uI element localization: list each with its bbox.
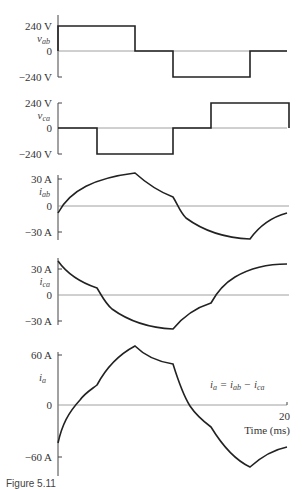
- ytick-240v: 240 V: [25, 97, 52, 109]
- ytick-240v: 240 V: [25, 20, 52, 32]
- panel-ica: 30 A ica 0 −30 A: [25, 258, 289, 329]
- ytick-0: 0: [47, 45, 53, 57]
- ytick-30a: 30 A: [31, 173, 52, 185]
- xtick-20: 20: [279, 410, 291, 422]
- ylabel-ica: ica: [39, 275, 50, 289]
- ytick-60a: 60 A: [31, 349, 52, 361]
- ytick-0: 0: [47, 200, 53, 212]
- ia-waveform: [58, 346, 287, 467]
- ytick-neg60a: −60 A: [25, 451, 52, 463]
- ytick-neg30a: −30 A: [25, 226, 52, 238]
- ytick-0: 0: [47, 122, 53, 134]
- ylabel-ia: ia: [39, 371, 46, 385]
- xlabel-time: Time (ms): [244, 424, 290, 437]
- vca-waveform: [58, 103, 289, 154]
- panel-vca: 240 V vca 0 −240 V: [19, 97, 289, 160]
- vab-waveform: [58, 26, 287, 77]
- ylabel-vab: vab: [37, 32, 50, 46]
- panel-iab: 30 A iab 0 −30 A: [25, 173, 289, 240]
- ytick-0: 0: [47, 399, 53, 411]
- equation-annotation: ia = iab − ica: [210, 378, 265, 392]
- figure-caption: Figure 5.11: [6, 478, 56, 489]
- ytick-30a: 30 A: [31, 263, 52, 275]
- ylabel-iab: iab: [39, 185, 50, 199]
- ytick-neg240v: −240 V: [19, 148, 52, 160]
- ytick-neg240v: −240 V: [19, 71, 52, 83]
- ylabel-vca: vca: [38, 109, 50, 123]
- panel-ia: 60 A ia 0 −60 A 20 Time (ms) ia = iab − …: [25, 346, 291, 476]
- ytick-neg30a: −30 A: [25, 315, 52, 327]
- ytick-0: 0: [47, 289, 53, 301]
- panel-vab: 240 V vab 0 −240 V: [19, 15, 287, 83]
